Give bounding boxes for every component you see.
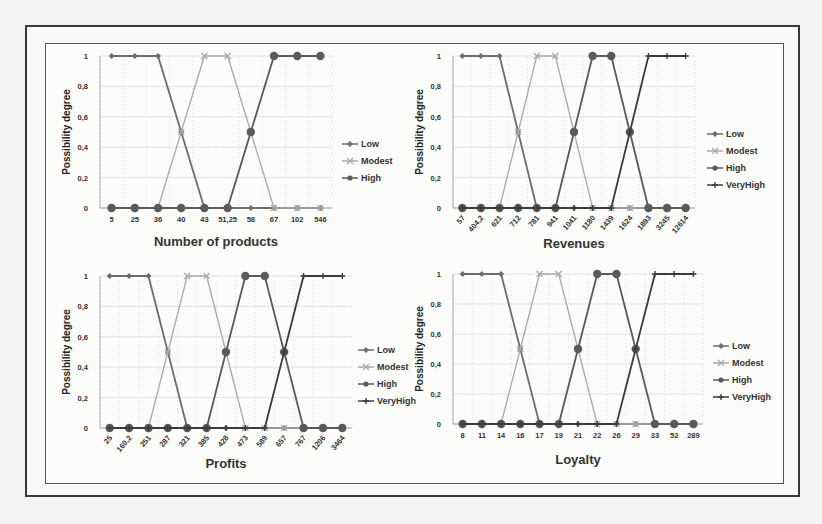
series-high	[458, 270, 697, 428]
marker-high	[316, 52, 324, 60]
legend-item-high: High	[707, 163, 746, 173]
legend: LowModestHigh	[342, 139, 393, 183]
x-axis-title: Revenues	[543, 236, 604, 251]
x-tick-label: 941	[545, 214, 560, 229]
marker-veryhigh	[575, 421, 581, 427]
y-tick-label: 0	[437, 420, 441, 429]
x-tick-label: 1206	[310, 434, 328, 453]
x-tick-label: 428	[216, 434, 231, 449]
y-tick-label: 0,4	[431, 360, 442, 369]
marker-high	[681, 204, 689, 212]
marker-high	[200, 204, 208, 212]
marker-veryhigh	[339, 273, 345, 279]
x-tick-label: 22	[593, 431, 601, 440]
x-tick-label: 25	[102, 434, 114, 446]
legend-label-high: High	[361, 173, 381, 183]
marker-low	[109, 53, 115, 59]
marker-low	[498, 271, 504, 277]
x-tick-label: 3464	[329, 433, 347, 452]
x-tick-label: 1893	[635, 214, 653, 233]
chart-profits: 00,20,40,60,81Possibility degree25160,22…	[50, 262, 410, 477]
x-tick-label: 43	[200, 215, 208, 224]
marker-high	[293, 52, 301, 60]
x-tick-label: 1180	[580, 214, 597, 232]
x-tick-label: 12614	[670, 213, 691, 235]
x-tick-label: 251	[138, 434, 153, 449]
marker-high	[338, 424, 346, 432]
marker-low	[460, 271, 466, 277]
marker-high	[588, 52, 596, 60]
x-tick-label: 21	[574, 431, 582, 440]
x-tick-label: 16	[516, 431, 524, 440]
marker-high	[154, 204, 162, 212]
legend-label-modest: Modest	[361, 156, 393, 166]
x-tick-label: 546	[314, 215, 327, 224]
marker-high	[570, 128, 578, 136]
y-tick-label: 0,8	[78, 302, 88, 311]
marker-high	[223, 204, 231, 212]
legend-label-modest: Modest	[726, 146, 758, 156]
marker-high	[593, 270, 601, 278]
x-tick-label: 19	[555, 431, 563, 440]
marker-high	[651, 420, 659, 428]
legend-item-modest: Modest	[358, 362, 409, 372]
marker-low	[712, 131, 718, 137]
x-tick-label: 621	[489, 214, 504, 229]
marker-high	[270, 52, 278, 60]
y-tick-label: 0,8	[431, 300, 441, 309]
legend-item-low: Low	[707, 129, 745, 139]
legend: LowModestHighVeryHigh	[707, 129, 765, 190]
y-axis-title: Possibility degree	[414, 89, 425, 175]
legend-item-high: High	[713, 375, 752, 385]
marker-low	[479, 271, 485, 277]
marker-high	[299, 424, 307, 432]
x-tick-label: 473	[235, 434, 250, 449]
y-tick-label: 0,2	[78, 174, 88, 183]
marker-veryhigh	[683, 53, 689, 59]
marker-high	[712, 165, 717, 170]
marker-veryhigh	[571, 205, 577, 211]
y-tick-label: 0,4	[78, 363, 89, 372]
x-tick-label: 781	[526, 214, 541, 229]
marker-low	[478, 53, 484, 59]
x-tick-label: 321	[177, 434, 192, 449]
legend-item-veryhigh: VeryHigh	[707, 180, 765, 190]
legend-label-high: High	[377, 379, 397, 389]
marker-low	[155, 53, 161, 59]
legend-label-veryhigh: VeryHigh	[377, 396, 416, 406]
x-axis-title: Number of products	[154, 234, 278, 249]
y-tick-label: 0,4	[78, 143, 89, 152]
x-tick-label: 29	[632, 431, 640, 440]
marker-veryhigh	[690, 271, 696, 277]
y-tick-label: 0	[437, 204, 441, 213]
x-tick-label: 36	[154, 215, 162, 224]
legend-item-low: Low	[342, 139, 380, 149]
y-tick-label: 0	[84, 204, 88, 213]
marker-veryhigh	[652, 271, 658, 277]
x-tick-label: 589	[254, 434, 269, 449]
marker-high	[347, 175, 352, 180]
x-tick-label: 102	[291, 215, 304, 224]
y-tick-label: 1	[84, 52, 88, 61]
y-tick-label: 1	[84, 272, 88, 281]
x-tick-label: 287	[157, 434, 172, 449]
legend-label-low: Low	[732, 341, 751, 351]
legend-label-high: High	[726, 163, 746, 173]
marker-veryhigh	[320, 273, 326, 279]
marker-veryhigh	[301, 273, 307, 279]
legend: LowModestHighVeryHigh	[713, 341, 771, 402]
x-tick-label: 58	[247, 215, 255, 224]
y-axis-title: Possibility degree	[61, 89, 72, 175]
x-tick-label: 5	[110, 215, 114, 224]
marker-low	[459, 53, 465, 59]
x-tick-label: 11	[478, 431, 486, 440]
legend-label-modest: Modest	[732, 358, 764, 368]
grid	[100, 56, 332, 208]
y-tick-label: 0,2	[431, 174, 441, 183]
marker-low	[718, 343, 724, 349]
legend-item-high: High	[342, 173, 381, 183]
legend-item-veryhigh: VeryHigh	[713, 392, 771, 402]
marker-high	[574, 345, 582, 353]
legend-item-modest: Modest	[342, 156, 393, 166]
y-tick-label: 0,2	[78, 394, 88, 403]
